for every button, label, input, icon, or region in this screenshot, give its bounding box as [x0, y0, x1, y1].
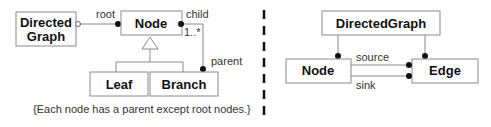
class-name: DirectedGraph — [336, 16, 426, 31]
class-directed-graph: DirectedGraph — [322, 11, 440, 35]
class-name: Node — [302, 63, 335, 78]
many-dot-icon — [335, 53, 341, 59]
aggregation-hollow-icon — [76, 22, 81, 27]
class-leaf: Leaf — [90, 72, 148, 96]
many-dot-icon — [115, 21, 121, 27]
many-dot-icon — [422, 53, 428, 59]
role-sink: sink — [356, 79, 376, 91]
role-child: child — [186, 8, 209, 20]
class-edge: Edge — [412, 59, 478, 83]
many-dot-icon — [200, 66, 206, 72]
class-directed-graph: Directed Graph — [16, 12, 76, 46]
class-name-line2: Graph — [27, 29, 65, 44]
class-name: Node — [135, 16, 168, 31]
class-node: Node — [121, 11, 182, 35]
class-name: Leaf — [106, 77, 133, 92]
multiplicity: 1..* — [184, 26, 201, 38]
right-diagram: DirectedGraph Node Edge source sink — [286, 11, 478, 91]
class-node: Node — [286, 59, 351, 83]
left-diagram: Directed Graph root Node child 1..* pare… — [16, 8, 251, 115]
role-parent: parent — [211, 55, 242, 67]
many-dot-icon — [406, 73, 412, 79]
class-name-line1: Directed — [20, 15, 72, 30]
generalization-triangle-icon — [142, 37, 158, 49]
class-name: Branch — [162, 77, 207, 92]
uml-diagrams: Directed Graph root Node child 1..* pare… — [0, 0, 491, 127]
class-name: Edge — [429, 63, 461, 78]
many-dot-icon — [406, 62, 412, 68]
role-source: source — [356, 51, 389, 63]
constraint-note: {Each node has a parent except root node… — [33, 103, 251, 115]
role-root: root — [96, 8, 115, 20]
class-branch: Branch — [150, 72, 218, 96]
